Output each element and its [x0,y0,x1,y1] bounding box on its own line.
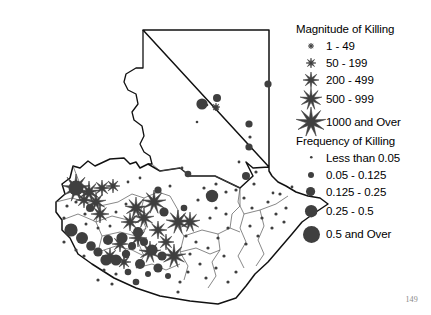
frequency-marker [135,259,145,269]
legend-item: 1000 and Over [296,110,431,134]
map-svg [40,16,340,315]
frequency-marker [102,268,105,271]
frequency-marker [122,250,130,258]
legend-item-label: 1 - 49 [326,39,355,53]
frequency-marker [254,170,257,173]
frequency-marker [103,235,113,245]
frequency-marker [264,80,271,87]
frequency-marker [62,216,65,219]
frequency-marker [85,223,88,226]
frequency-marker [115,211,118,214]
frequency-marker [181,205,188,212]
legend-item-label: 200 - 499 [326,73,374,87]
legend-item: 0.25 - 0.5 [296,200,431,222]
frequency-marker [248,135,251,138]
legend-item-label: 0.25 - 0.5 [326,204,374,218]
legend-item-label: 0.125 - 0.25 [326,185,386,199]
frequency-marker [208,216,211,219]
frequency-marker [145,271,151,277]
frequency-marker [260,216,263,219]
frequency-marker [96,278,99,281]
frequency-marker [214,182,217,185]
circle-icon [296,203,326,220]
legend-item: 0.05 - 0.125 [296,166,431,183]
frequency-marker [245,120,252,127]
legend-magnitude-rows: 1 - 4950 - 199200 - 499500 - 9991000 and… [296,37,431,134]
frequency-marker [139,177,142,180]
frequency-marker [86,204,94,212]
frequency-marker [97,227,100,230]
frequency-marker [83,212,86,215]
frequency-marker [272,192,275,195]
frequency-marker [185,171,192,178]
frequency-marker [62,240,65,243]
frequency-marker [181,167,184,170]
frequency-marker [202,186,205,189]
legend-frequency-rows: Less than 0.050.05 - 0.1250.125 - 0.250.… [296,149,431,246]
magnitude-marker [213,105,219,111]
frequency-marker [186,270,189,273]
frequency-marker [214,206,217,209]
frequency-marker [176,290,179,293]
frequency-marker [196,198,199,201]
frequency-marker [184,234,187,237]
legend-frequency-title: Frequency of Killing [296,134,431,149]
frequency-marker [188,252,191,255]
frequency-marker [82,254,85,257]
frequency-marker [194,240,197,243]
frequency-marker [110,282,113,285]
frequency-marker [266,200,269,203]
frequency-marker [74,248,77,251]
frequency-marker [100,254,111,265]
legend-item: 0.125 - 0.25 [296,183,431,200]
frequency-marker [133,279,140,286]
frequency-marker [114,272,117,275]
frequency-marker [250,206,253,209]
legend-item-label: 0.05 - 0.125 [326,168,386,182]
frequency-marker [157,251,166,260]
frequency-marker [196,98,207,109]
frequency-marker [153,263,162,272]
frequency-marker [284,206,287,209]
legend-item-label: 1000 and Over [326,115,401,129]
legend-item-label: 50 - 199 [326,56,367,70]
frequency-marker [154,186,161,193]
frequency-marker [128,242,136,250]
frequency-marker [244,242,247,245]
frequency-marker [127,181,130,184]
circle-icon [296,226,326,243]
magnitude-marker [106,179,120,193]
country-outline [56,30,328,304]
legend-item: 0.5 and Over [296,222,431,246]
frequency-marker [252,182,255,185]
frequency-marker [274,212,277,215]
frequency-marker [109,225,112,228]
frequency-marker [64,223,77,236]
frequency-marker [165,273,171,279]
frequency-marker [198,262,201,265]
frequency-marker [133,227,143,237]
frequency-marker [242,172,250,180]
frequency-marker [206,246,209,249]
frequency-marker [159,207,168,216]
country-outline-path [56,30,328,304]
frequency-marker [214,266,217,269]
peten-internal-border [124,30,152,164]
frequency-marker [278,192,281,195]
frequency-marker [248,224,251,227]
star-icon [296,114,326,131]
frequency-marker [222,254,225,257]
frequency-marker [226,280,229,283]
frequency-marker [226,226,229,229]
legend-magnitude: Magnitude of Killing 1 - 4950 - 199200 -… [296,22,431,134]
circle-icon [296,149,326,166]
frequency-marker [169,185,172,188]
page-number: 149 [405,295,418,304]
frequency-marker [224,190,227,193]
frequency-marker [69,181,84,196]
magnitude-marker [158,234,174,250]
legend-item: 1 - 49 [296,37,431,54]
frequency-marker [234,270,237,273]
guatemala-choropleth-map [40,16,340,315]
frequency-marker [65,204,68,207]
